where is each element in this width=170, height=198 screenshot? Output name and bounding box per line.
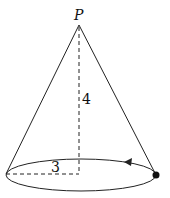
rim-point xyxy=(153,172,160,179)
height-label: 4 xyxy=(82,91,91,107)
cone-base xyxy=(6,159,156,191)
apex-label: P xyxy=(73,7,84,23)
cone-left-side xyxy=(6,25,79,174)
arrow-icon xyxy=(124,158,132,166)
radius-label: 3 xyxy=(51,159,60,175)
cone-diagram: P 4 3 xyxy=(0,0,170,198)
